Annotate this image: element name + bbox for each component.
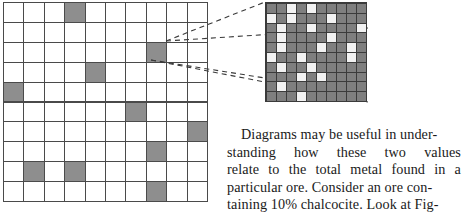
- grid-cell-r3-c10: [187, 42, 208, 63]
- grid-cell-r10-c7: [125, 181, 146, 202]
- grid-cell-r7-c2: [23, 121, 44, 142]
- grid-cell-r6-c10: [187, 102, 208, 123]
- grid-cell-r5-c3: [44, 82, 65, 103]
- grid-cell-r4-c2: [23, 62, 44, 83]
- grid-cell-r8-c10: [187, 141, 208, 162]
- word: how: [294, 144, 319, 162]
- grid-cell-r10-c8: [146, 181, 167, 202]
- word: to: [268, 161, 279, 179]
- grid-cell-r8-c3: [44, 141, 65, 162]
- word: in: [434, 161, 445, 179]
- paragraph-line-4: particular ore. Consider an ore con-: [227, 179, 461, 197]
- word: two: [384, 144, 406, 162]
- grid-cell-r3-c6: [105, 42, 126, 63]
- paragraph-line-3: relatetothetotalmetalfoundina: [227, 161, 461, 179]
- grid-cell-r1-c1: [3, 2, 24, 23]
- grid-cell-r3-c5: [85, 42, 106, 63]
- grid-cell-r2-c7: [125, 22, 146, 43]
- grid-cell-r6-c2: [23, 102, 44, 123]
- grid-cell-r7-c9: [166, 121, 187, 142]
- word: found: [391, 161, 425, 179]
- grid-cell-r1-c8: [146, 2, 167, 23]
- grid-cell-r6-c5: [85, 102, 106, 123]
- grid-cell-r3-c1: [3, 42, 24, 63]
- grid-cell-r1-c5: [85, 2, 106, 23]
- grid-cell-r5-c7: [125, 82, 146, 103]
- grid-cell-r9-c1: [3, 161, 24, 182]
- grid-cell-r10-c10: [187, 181, 208, 202]
- grid-cell-r7-c8: [146, 121, 167, 142]
- grid-cell-r9-c8: [146, 161, 167, 182]
- grid-cell-r4-c8: [146, 62, 167, 83]
- grid-cell-r4-c9: [166, 62, 187, 83]
- grid-cell-r7-c10: [187, 121, 208, 142]
- word: metal: [350, 161, 382, 179]
- grid-cell-r5-c5: [85, 82, 106, 103]
- grid-cell-r4-c5: [85, 62, 106, 83]
- grid-cell-r1-c3: [44, 2, 65, 23]
- grid-cell-r10-c1: [3, 181, 24, 202]
- grid-cell-r3-c2: [23, 42, 44, 63]
- grid-cell-r7-c5: [85, 121, 106, 142]
- grid-cell-r6-c6: [105, 102, 126, 123]
- paragraph-line-2: standinghowthesetwovalues: [227, 144, 461, 162]
- grid-cell-r10-c2: [23, 181, 44, 202]
- grid-cell-r7-c1: [3, 121, 24, 142]
- grid-cell-r4-c10: [187, 62, 208, 83]
- grid-cell-r2-c4: [64, 22, 85, 43]
- paragraph-line-5: taining 10% chalcocite. Look at Fig-: [227, 196, 461, 214]
- paragraph-line-1: Diagrams may be useful in under-: [227, 126, 461, 144]
- grid-cell-r3-c8: [146, 42, 167, 63]
- grid-cell-r5-c4: [64, 82, 85, 103]
- grid-cell-r2-c1: [3, 22, 24, 43]
- grid-cell-r6-c9: [166, 102, 187, 123]
- grid-cell-r2-c2: [23, 22, 44, 43]
- grid-cell-r9-c7: [125, 161, 146, 182]
- grid-cell-r9-c6: [105, 161, 126, 182]
- grid-cell-r10-c5: [85, 181, 106, 202]
- grid-cell-r8-c5: [85, 141, 106, 162]
- grid-cell-r3-c7: [125, 42, 146, 63]
- grid-cell-r6-c8: [146, 102, 167, 123]
- grid-cell-r9-c2: [23, 161, 44, 182]
- grid-cell-r9-c3: [44, 161, 65, 182]
- grid-cell-r6-c7: [125, 102, 146, 123]
- paragraph-lines: Diagrams may be useful in under-standing…: [227, 126, 461, 214]
- grid-cell-r9-c5: [85, 161, 106, 182]
- grid-cell-r4-c7: [125, 62, 146, 83]
- grid-cell-r1-c4: [64, 2, 85, 23]
- grid-cell-r2-c6: [105, 22, 126, 43]
- word: total: [315, 161, 341, 179]
- grid-cell-r2-c5: [85, 22, 106, 43]
- grid-cell-r8-c1: [3, 141, 24, 162]
- grid-cell-r4-c3: [44, 62, 65, 83]
- grid-cell-r6-c4: [64, 102, 85, 123]
- grid-cell-r8-c2: [23, 141, 44, 162]
- ore-sample-grid: [3, 2, 207, 201]
- grid-cell-r6-c1: [3, 102, 24, 123]
- word: standing: [227, 144, 276, 162]
- grid-cell-r8-c4: [64, 141, 85, 162]
- grid-cell-r7-c4: [64, 121, 85, 142]
- grid-cell-r5-c1: [3, 82, 24, 103]
- detail-cell-r10-c10: [356, 91, 367, 102]
- grid-cell-r1-c7: [125, 2, 146, 23]
- grid-cell-r7-c3: [44, 121, 65, 142]
- grid-cell-r5-c9: [166, 82, 187, 103]
- grid-cell-r1-c9: [166, 2, 187, 23]
- body-paragraph: Diagrams may be useful in under-standing…: [227, 126, 461, 214]
- grid-cell-r7-c6: [105, 121, 126, 142]
- grid-cell-r8-c9: [166, 141, 187, 162]
- grid-cell-r3-c4: [64, 42, 85, 63]
- figure-page: Diagrams may be useful in under-standing…: [0, 0, 463, 219]
- grid-cell-r5-c8: [146, 82, 167, 103]
- grid-cell-r10-c9: [166, 181, 187, 202]
- grid-cell-r1-c6: [105, 2, 126, 23]
- grid-cell-r10-c3: [44, 181, 65, 202]
- magnified-cell-grid: [265, 2, 367, 102]
- grid-cell-r5-c6: [105, 82, 126, 103]
- word: these: [337, 144, 367, 162]
- grid-cell-r10-c4: [64, 181, 85, 202]
- grid-cell-r2-c3: [44, 22, 65, 43]
- grid-cell-r1-c2: [23, 2, 44, 23]
